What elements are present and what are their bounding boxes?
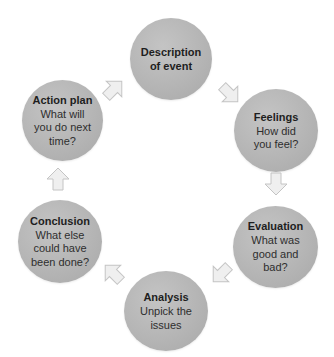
node-feelings: Feelings How did you feel? [234, 89, 318, 172]
node-title: Evaluation [248, 219, 304, 233]
node-conclusion: Conclusion What else could have been don… [18, 200, 102, 283]
node-action-plan: Action plan What will you do next time? [22, 80, 103, 161]
node-description: Description of event [130, 18, 212, 100]
node-analysis: Analysis Unpick the issues [124, 271, 208, 351]
node-subtitle: What will you do next time? [34, 108, 91, 149]
arrow-up-icon [46, 167, 70, 191]
node-title: Conclusion [30, 214, 90, 228]
node-evaluation: Evaluation What was good and bad? [233, 206, 318, 288]
node-subtitle: How did you feel? [254, 125, 299, 152]
node-title: Feelings [254, 110, 299, 124]
arrow-down-icon [264, 172, 288, 196]
reflective-cycle-diagram: Description of event Feelings How did yo… [0, 0, 334, 357]
node-subtitle: Unpick the issues [140, 305, 192, 332]
node-subtitle: What else could have been done? [31, 229, 89, 270]
node-title: Description of event [141, 45, 202, 73]
arrow-up-left-icon [96, 256, 130, 290]
arrow-up-right-icon [97, 72, 131, 106]
node-title: Analysis [143, 290, 188, 304]
node-subtitle: What was good and bad? [251, 234, 299, 275]
node-title: Action plan [33, 93, 93, 107]
arrow-down-left-icon [204, 257, 238, 291]
